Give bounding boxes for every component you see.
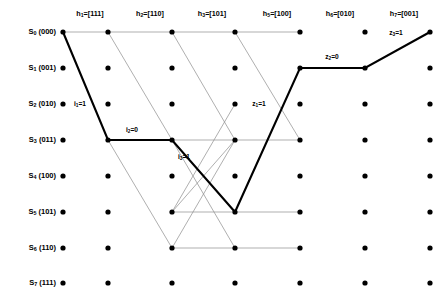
state-node xyxy=(427,280,432,285)
state-label-s6: S6 (110) xyxy=(29,243,57,252)
state-label-s2: S2 (010) xyxy=(28,99,56,108)
state-label-s1: S1 (001) xyxy=(28,63,56,72)
state-node xyxy=(297,101,302,106)
column-header-h7: h7=[001] xyxy=(390,9,418,18)
state-node xyxy=(297,209,302,214)
state-node xyxy=(427,137,432,142)
edge-label-z1: z1=1 xyxy=(252,100,266,108)
state-node xyxy=(297,137,302,142)
state-node xyxy=(169,101,174,106)
column-header-h2: h2=[110] xyxy=(136,9,164,18)
state-node xyxy=(362,101,367,106)
state-node xyxy=(169,29,174,34)
state-node xyxy=(232,173,237,178)
column-header-h3: h3=[101] xyxy=(198,9,226,18)
state-node xyxy=(60,65,65,70)
state-node xyxy=(297,173,302,178)
state-node xyxy=(232,65,237,70)
state-node xyxy=(297,65,302,70)
state-node xyxy=(362,65,367,70)
trellis-edge xyxy=(235,32,300,140)
state-node xyxy=(427,173,432,178)
state-node xyxy=(362,29,367,34)
state-node xyxy=(169,245,174,250)
state-node xyxy=(362,245,367,250)
state-node xyxy=(362,280,367,285)
state-node xyxy=(60,173,65,178)
state-node xyxy=(362,173,367,178)
state-node xyxy=(362,137,367,142)
state-node xyxy=(427,29,432,34)
state-node xyxy=(105,65,110,70)
state-node xyxy=(60,101,65,106)
state-node xyxy=(60,29,65,34)
state-labels-group: S0 (000)S1 (001)S2 (010)S3 (011)S4 (100)… xyxy=(28,27,56,287)
state-node xyxy=(105,280,110,285)
state-node xyxy=(60,137,65,142)
state-label-s4: S4 (100) xyxy=(28,171,56,180)
state-node xyxy=(427,65,432,70)
state-node xyxy=(232,280,237,285)
state-label-s7: S7 (111) xyxy=(29,278,56,287)
state-node xyxy=(60,245,65,250)
edge-label-z3: z3=1 xyxy=(389,29,403,37)
state-node xyxy=(232,29,237,34)
survivor-path xyxy=(63,32,430,212)
edge-label-i1: i1=1 xyxy=(74,100,86,108)
state-node xyxy=(297,29,302,34)
bold-survivor-path xyxy=(63,32,430,212)
state-node xyxy=(427,245,432,250)
state-label-s3: S3 (011) xyxy=(29,135,57,144)
state-node xyxy=(169,173,174,178)
state-node xyxy=(427,209,432,214)
trellis-edge xyxy=(108,140,172,248)
trellis-diagram: S0 (000)S1 (001)S2 (010)S3 (011)S4 (100)… xyxy=(0,0,443,305)
state-node xyxy=(232,209,237,214)
state-node xyxy=(60,209,65,214)
state-node xyxy=(105,101,110,106)
edge-label-i2: i2=0 xyxy=(126,126,138,134)
trellis-edge xyxy=(172,32,235,140)
state-node xyxy=(105,173,110,178)
state-label-s0: S0 (000) xyxy=(28,27,56,36)
state-label-s5: S5 (101) xyxy=(28,207,56,216)
state-node xyxy=(105,137,110,142)
state-node xyxy=(232,101,237,106)
state-node xyxy=(169,209,174,214)
column-header-h5: h5=[100] xyxy=(263,9,291,18)
state-node xyxy=(105,29,110,34)
state-node xyxy=(232,137,237,142)
state-node xyxy=(60,280,65,285)
thin-edges-group xyxy=(63,32,300,248)
state-node xyxy=(427,101,432,106)
state-node xyxy=(232,245,237,250)
state-node xyxy=(297,245,302,250)
trellis-edge xyxy=(108,32,172,140)
state-node xyxy=(105,245,110,250)
state-node xyxy=(169,280,174,285)
edge-label-z2: z2=0 xyxy=(325,53,339,61)
state-node xyxy=(362,209,367,214)
state-nodes-group xyxy=(60,29,432,285)
state-node xyxy=(169,65,174,70)
state-node xyxy=(297,280,302,285)
column-header-h6: h6=[010] xyxy=(326,9,354,18)
trellis-canvas: S0 (000)S1 (001)S2 (010)S3 (011)S4 (100)… xyxy=(0,0,443,305)
column-header-h1: h1=[111] xyxy=(76,9,103,18)
state-node xyxy=(105,209,110,214)
column-headers-group: h1=[111]h2=[110]h3=[101]h5=[100]h6=[010]… xyxy=(76,9,418,18)
state-node xyxy=(169,137,174,142)
